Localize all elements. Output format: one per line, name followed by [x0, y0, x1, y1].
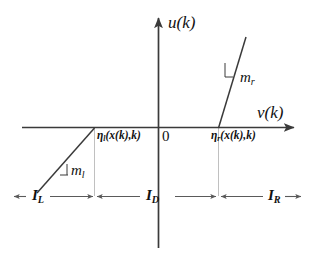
- right-breakpoint-args: (x(k),k): [220, 129, 255, 141]
- deadzone-diagram: u(k) v(k) 0 ηl(x(k),k) ηr(x(k),k) ml mr …: [0, 0, 316, 262]
- right-slope-subscript: r: [251, 76, 255, 87]
- left-slope-symbol: m: [71, 162, 82, 178]
- interval-label-right: IR: [268, 188, 281, 205]
- left-branch-line: [37, 128, 95, 193]
- left-breakpoint-label: ηl(x(k),k): [97, 130, 141, 143]
- right-slope-symbol: m: [240, 69, 251, 85]
- interval-right-subscript: R: [274, 194, 281, 205]
- left-slope-label: ml: [71, 163, 85, 180]
- left-slope-subscript: l: [82, 169, 85, 180]
- interval-deadzone-subscript: D: [152, 194, 159, 205]
- interval-label-deadzone: ID: [146, 188, 159, 205]
- horizontal-axis-label: v(k): [257, 104, 283, 121]
- left-breakpoint-args: (x(k),k): [105, 129, 140, 141]
- vertical-axis-label: u(k): [168, 14, 195, 31]
- right-slope-label: mr: [240, 70, 255, 87]
- right-slope-tick-icon: [225, 63, 233, 77]
- right-breakpoint-label: ηr(x(k),k): [211, 130, 256, 143]
- origin-label: 0: [162, 129, 170, 144]
- diagram-canvas: [0, 0, 316, 262]
- interval-label-left: IL: [32, 188, 44, 205]
- interval-left-subscript: L: [38, 194, 44, 205]
